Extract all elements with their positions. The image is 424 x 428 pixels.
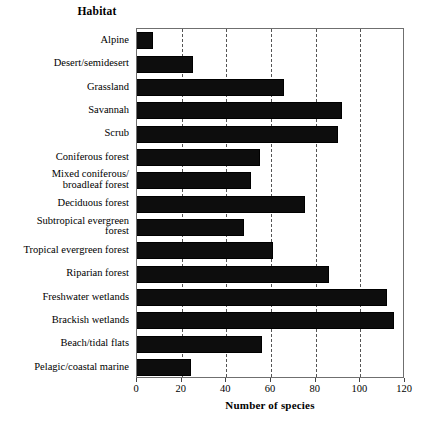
- bar-row: [137, 196, 405, 213]
- bar-row: [137, 149, 405, 166]
- category-label-line: broadleaf forest: [0, 180, 129, 191]
- category-label: Freshwater wetlands: [0, 292, 129, 303]
- plot-area: [136, 28, 404, 378]
- category-label: Brackish wetlands: [0, 315, 129, 326]
- category-label-line: Alpine: [0, 35, 129, 46]
- category-label-line: forest: [0, 226, 129, 237]
- category-label-line: Grassland: [0, 82, 129, 93]
- bar-row: [137, 56, 405, 73]
- bar-row: [137, 336, 405, 353]
- x-axis-tick-labels: 020406080100120: [136, 383, 404, 397]
- x-axis-tick: [225, 378, 226, 382]
- bar-series: [137, 29, 403, 377]
- category-label: Beach/tidal flats: [0, 338, 129, 349]
- category-label: Coniferous forest: [0, 152, 129, 163]
- x-axis-tick-label: 40: [220, 383, 231, 394]
- category-label: Subtropical evergreenforest: [0, 216, 129, 237]
- bar-row: [137, 32, 405, 49]
- bar: [137, 149, 260, 166]
- bar: [137, 266, 329, 283]
- category-label-line: Freshwater wetlands: [0, 292, 129, 303]
- category-label: Pelagic/coastal marine: [0, 362, 129, 373]
- category-label-line: Deciduous forest: [0, 198, 129, 209]
- category-label-line: Riparian forest: [0, 268, 129, 279]
- category-label-line: Desert/semidesert: [0, 58, 129, 69]
- category-label-line: Beach/tidal flats: [0, 338, 129, 349]
- bar-row: [137, 126, 405, 143]
- x-axis-tick: [359, 378, 360, 382]
- x-axis-tick-label: 120: [396, 383, 412, 394]
- x-axis-tick-label: 20: [175, 383, 186, 394]
- category-label: Desert/semidesert: [0, 58, 129, 69]
- x-axis-tick: [270, 378, 271, 382]
- bar: [137, 196, 305, 213]
- category-label-line: Brackish wetlands: [0, 315, 129, 326]
- category-label: Deciduous forest: [0, 198, 129, 209]
- category-label-line: Pelagic/coastal marine: [0, 362, 129, 373]
- bar: [137, 56, 193, 73]
- bar-row: [137, 79, 405, 96]
- bar-row: [137, 266, 405, 283]
- category-axis-labels: AlpineDesert/semidesertGrasslandSavannah…: [0, 28, 132, 378]
- category-label: Alpine: [0, 35, 129, 46]
- x-axis-tick: [136, 378, 137, 382]
- bar-row: [137, 312, 405, 329]
- x-axis-title: Number of species: [136, 399, 404, 411]
- bar-row: [137, 172, 405, 189]
- category-label-line: Tropical evergreen forest: [0, 245, 129, 256]
- bar: [137, 336, 262, 353]
- bar-row: [137, 359, 405, 376]
- bar: [137, 219, 244, 236]
- category-label: Grassland: [0, 82, 129, 93]
- category-label: Tropical evergreen forest: [0, 245, 129, 256]
- category-label: Scrub: [0, 128, 129, 139]
- x-axis-tick-label: 80: [309, 383, 320, 394]
- category-label: Riparian forest: [0, 268, 129, 279]
- bar: [137, 102, 342, 119]
- category-label: Savannah: [0, 105, 129, 116]
- bar: [137, 312, 394, 329]
- x-axis-tick: [315, 378, 316, 382]
- bar: [137, 126, 338, 143]
- bar: [137, 32, 153, 49]
- x-axis-tick: [181, 378, 182, 382]
- bar-row: [137, 289, 405, 306]
- category-label-line: Coniferous forest: [0, 152, 129, 163]
- category-label: Mixed coniferous/broadleaf forest: [0, 169, 129, 190]
- x-axis-tick-label: 0: [133, 383, 138, 394]
- page-title: Habitat: [0, 5, 194, 17]
- category-label-line: Scrub: [0, 128, 129, 139]
- x-axis-tick-label: 60: [265, 383, 276, 394]
- bar-row: [137, 242, 405, 259]
- bar: [137, 79, 284, 96]
- bar: [137, 242, 273, 259]
- bar: [137, 359, 191, 376]
- bar: [137, 172, 251, 189]
- bar: [137, 289, 387, 306]
- bar-row: [137, 219, 405, 236]
- category-label-line: Savannah: [0, 105, 129, 116]
- x-axis-tick: [404, 378, 405, 382]
- x-axis-tick-label: 100: [351, 383, 367, 394]
- bar-row: [137, 102, 405, 119]
